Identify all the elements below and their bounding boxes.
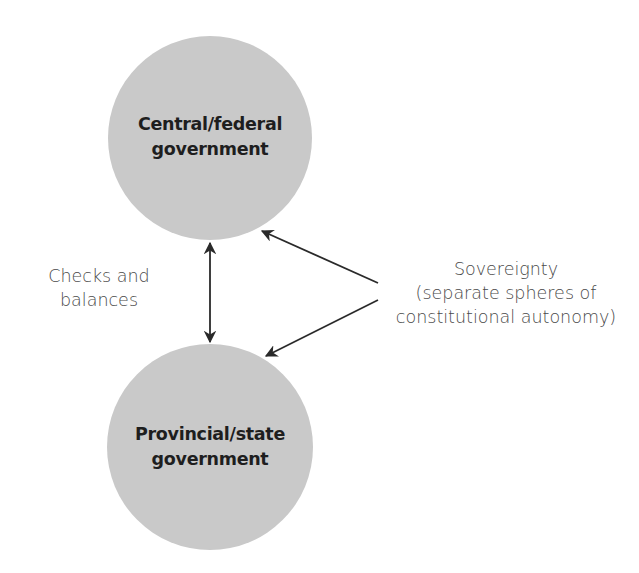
- checks-label-line2: balances: [34, 288, 164, 312]
- sovereignty-arrow-to-provincial: [266, 300, 378, 356]
- sovereignty-label-line1: Sovereignty: [376, 257, 636, 281]
- sovereignty-label-line3: constitutional autonomy): [376, 305, 636, 329]
- checks-label-line1: Checks and: [34, 264, 164, 288]
- central-label-line2: government: [110, 137, 310, 162]
- sovereignty-label: Sovereignty (separate spheres of constit…: [376, 257, 636, 329]
- central-government-label: Central/federal government: [110, 112, 310, 162]
- provincial-label-line1: Provincial/state: [106, 422, 314, 447]
- provincial-label-line2: government: [106, 447, 314, 472]
- sovereignty-arrow-to-central: [262, 231, 378, 283]
- central-label-line1: Central/federal: [110, 112, 310, 137]
- provincial-government-label: Provincial/state government: [106, 422, 314, 472]
- sovereignty-label-line2: (separate spheres of: [376, 281, 636, 305]
- checks-and-balances-label: Checks and balances: [34, 264, 164, 312]
